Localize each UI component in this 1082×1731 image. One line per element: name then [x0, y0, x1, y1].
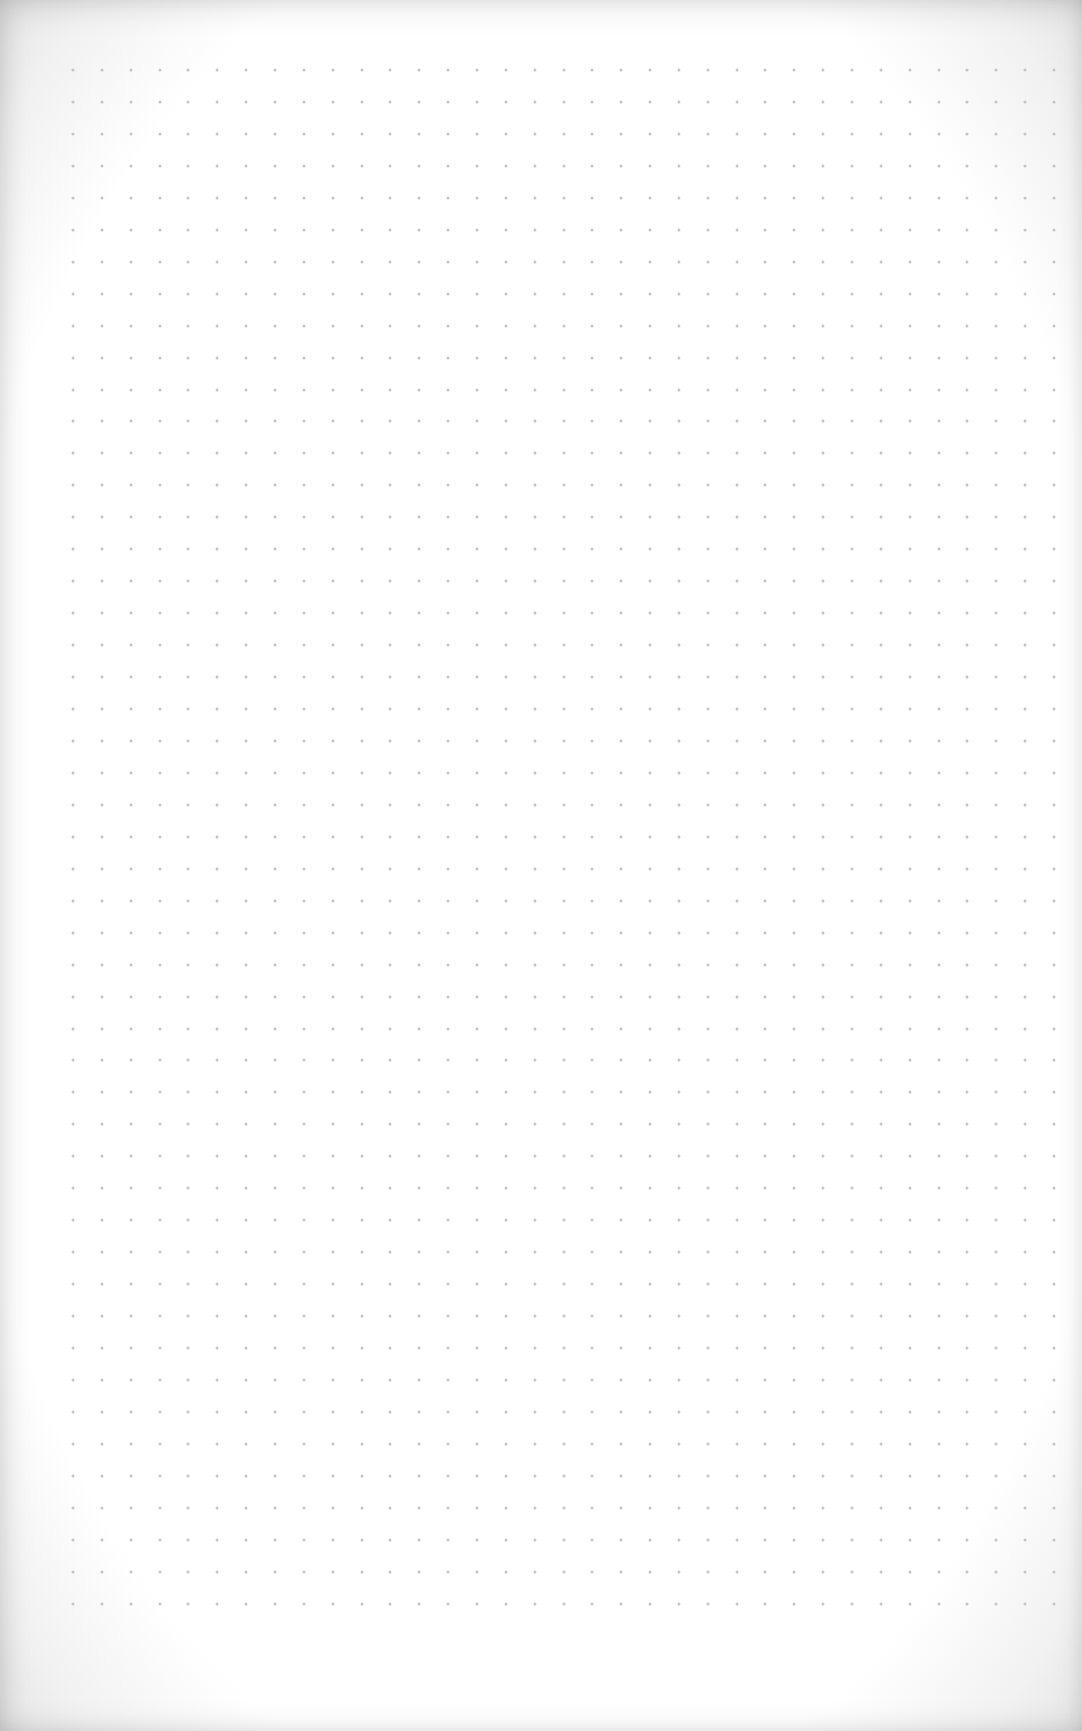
grid-dot [475, 1283, 478, 1286]
grid-dot [649, 835, 652, 838]
grid-dot [504, 739, 507, 742]
grid-dot [620, 420, 623, 423]
grid-dot [677, 228, 680, 231]
grid-dot [562, 580, 565, 583]
grid-dot [879, 708, 882, 711]
grid-dot [649, 1027, 652, 1030]
grid-dot [620, 1123, 623, 1126]
grid-dot [735, 771, 738, 774]
grid-dot [245, 1347, 248, 1350]
grid-dot [649, 739, 652, 742]
grid-dot [995, 1283, 998, 1286]
grid-dot [879, 612, 882, 615]
grid-dot [245, 1570, 248, 1573]
grid-dot [504, 292, 507, 295]
grid-dot [822, 835, 825, 838]
grid-dot [504, 452, 507, 455]
grid-dot [677, 356, 680, 359]
grid-dot [649, 420, 652, 423]
grid-dot [533, 452, 536, 455]
grid-dot [447, 771, 450, 774]
grid-dot [418, 1027, 421, 1030]
grid-dot [937, 1570, 940, 1573]
grid-dot [764, 867, 767, 870]
grid-dot [793, 260, 796, 263]
grid-dot [620, 292, 623, 295]
grid-dot [389, 1187, 392, 1190]
grid-dot [649, 516, 652, 519]
grid-dot [331, 612, 334, 615]
grid-dot [591, 1315, 594, 1318]
grid-dot [793, 1506, 796, 1509]
grid-dot [735, 1187, 738, 1190]
grid-dot [851, 676, 854, 679]
grid-dot [1052, 899, 1055, 902]
grid-dot [649, 612, 652, 615]
grid-dot [129, 69, 132, 72]
grid-dot [879, 164, 882, 167]
grid-dot [1024, 1602, 1027, 1605]
grid-dot [72, 1602, 75, 1605]
grid-dot [360, 388, 363, 391]
grid-dot [591, 995, 594, 998]
grid-dot [1052, 1059, 1055, 1062]
grid-dot [129, 1059, 132, 1062]
grid-dot [908, 1347, 911, 1350]
grid-dot [187, 101, 190, 104]
grid-dot [851, 1347, 854, 1350]
grid-dot [591, 516, 594, 519]
grid-dot [389, 196, 392, 199]
grid-dot [735, 803, 738, 806]
grid-dot [677, 516, 680, 519]
grid-dot [504, 1538, 507, 1541]
grid-dot [187, 260, 190, 263]
grid-dot [822, 164, 825, 167]
grid-dot [1052, 1347, 1055, 1350]
grid-dot [879, 388, 882, 391]
grid-dot [389, 260, 392, 263]
grid-dot [620, 963, 623, 966]
grid-dot [302, 452, 305, 455]
grid-dot [158, 452, 161, 455]
grid-dot [274, 420, 277, 423]
grid-dot [793, 931, 796, 934]
grid-dot [966, 1123, 969, 1126]
grid-dot [764, 580, 767, 583]
grid-dot [72, 1379, 75, 1382]
grid-dot [216, 292, 219, 295]
grid-dot [533, 867, 536, 870]
grid-dot [1052, 803, 1055, 806]
grid-dot [331, 1347, 334, 1350]
grid-dot [216, 548, 219, 551]
grid-dot [72, 1027, 75, 1030]
grid-dot [216, 612, 219, 615]
grid-dot [100, 1091, 103, 1094]
grid-dot [649, 1187, 652, 1190]
grid-dot [649, 995, 652, 998]
grid-dot [302, 1602, 305, 1605]
grid-dot [158, 1474, 161, 1477]
grid-dot [851, 1474, 854, 1477]
grid-dot [735, 1506, 738, 1509]
grid-dot [562, 356, 565, 359]
grid-dot [187, 1474, 190, 1477]
grid-dot [158, 963, 161, 966]
grid-dot [274, 1474, 277, 1477]
grid-dot [389, 995, 392, 998]
grid-dot [851, 1506, 854, 1509]
grid-dot [331, 132, 334, 135]
grid-dot [937, 1474, 940, 1477]
grid-dot [1052, 452, 1055, 455]
grid-dot [360, 1283, 363, 1286]
grid-dot [360, 228, 363, 231]
grid-dot [302, 1027, 305, 1030]
grid-dot [562, 484, 565, 487]
grid-dot [360, 548, 363, 551]
grid-dot [649, 1059, 652, 1062]
grid-dot [562, 1474, 565, 1477]
grid-dot [908, 1027, 911, 1030]
grid-dot [851, 1442, 854, 1445]
grid-dot [822, 388, 825, 391]
grid-dot [879, 1474, 882, 1477]
grid-dot [879, 1091, 882, 1094]
